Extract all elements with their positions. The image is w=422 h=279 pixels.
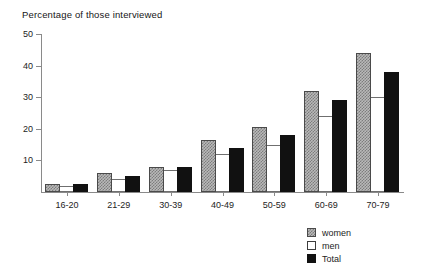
- chart-title: Percentage of those interviewed: [22, 9, 162, 20]
- bar-total-50-59: [280, 135, 295, 192]
- x-axis-label-30-39: 30-39: [159, 200, 182, 210]
- x-tick-40-49: [223, 192, 224, 196]
- legend-label-women: women: [322, 228, 351, 238]
- y-tick-label-40: 40: [3, 61, 33, 71]
- bar-women-16-20: [45, 184, 60, 192]
- legend: womenmenTotal: [307, 226, 351, 265]
- bar-group: [97, 34, 141, 192]
- y-tick-label-10: 10: [3, 155, 33, 165]
- bar-group: [149, 34, 193, 192]
- bar-group: [201, 34, 245, 192]
- x-tick-30-39: [171, 192, 172, 196]
- x-axis-label-40-49: 40-49: [211, 200, 234, 210]
- x-tick-16-20: [67, 192, 68, 196]
- x-tick-21-29: [119, 192, 120, 196]
- legend-item-women: women: [307, 226, 351, 239]
- legend-swatch-men: [307, 241, 316, 250]
- bar-women-60-69: [304, 91, 319, 192]
- legend-label-Total: Total: [322, 254, 341, 264]
- bar-women-70-79: [356, 53, 371, 192]
- y-tick-label-50: 50: [3, 29, 33, 39]
- bar-total-60-69: [332, 100, 347, 192]
- bar-chart: Percentage of those interviewed 10203040…: [0, 0, 422, 279]
- x-axis-label-60-69: 60-69: [315, 200, 338, 210]
- bar-total-21-29: [125, 176, 140, 192]
- bar-total-16-20: [73, 184, 88, 192]
- bar-group: [356, 34, 400, 192]
- y-tick-label-30: 30: [3, 92, 33, 102]
- bar-total-70-79: [384, 72, 399, 192]
- legend-item-Total: Total: [307, 252, 351, 265]
- x-tick-70-79: [378, 192, 379, 196]
- y-tick-label-20: 20: [3, 124, 33, 134]
- legend-label-men: men: [322, 241, 340, 251]
- x-tick-50-59: [274, 192, 275, 196]
- bar-women-40-49: [201, 140, 216, 192]
- x-tick-60-69: [326, 192, 327, 196]
- bar-group: [45, 34, 89, 192]
- legend-item-men: men: [307, 239, 351, 252]
- bar-group: [252, 34, 296, 192]
- bar-group: [304, 34, 348, 192]
- bar-total-40-49: [229, 148, 244, 192]
- legend-swatch-women: [307, 228, 316, 237]
- bar-women-50-59: [252, 127, 267, 192]
- legend-swatch-Total: [307, 254, 316, 263]
- bar-women-21-29: [97, 173, 112, 192]
- x-axis-label-70-79: 70-79: [367, 200, 390, 210]
- bar-total-30-39: [177, 167, 192, 192]
- bar-women-30-39: [149, 167, 164, 192]
- x-axis-label-21-29: 21-29: [107, 200, 130, 210]
- y-axis-labels: 1020304050: [0, 0, 33, 279]
- plot-area: [41, 34, 404, 192]
- x-axis-label-50-59: 50-59: [263, 200, 286, 210]
- x-axis-label-16-20: 16-20: [55, 200, 78, 210]
